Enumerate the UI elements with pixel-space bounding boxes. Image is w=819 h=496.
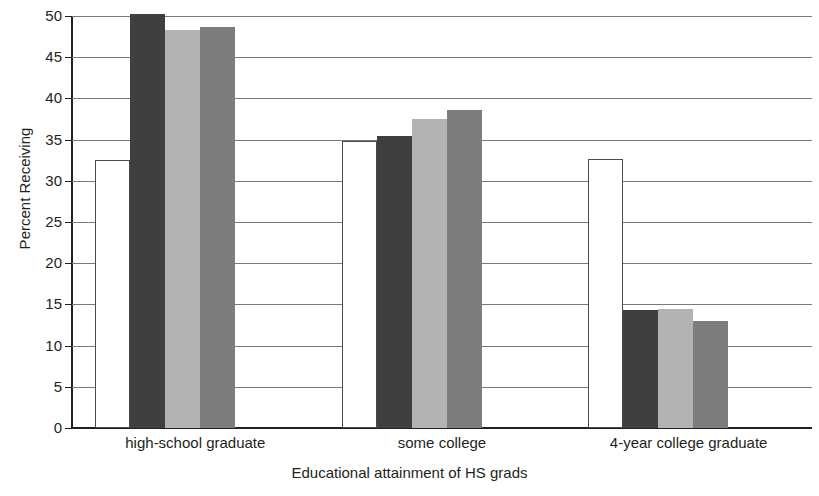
- bar: [658, 309, 693, 428]
- y-tick-50: [65, 16, 72, 17]
- bar: [588, 159, 623, 428]
- y-tick-10: [65, 346, 72, 347]
- y-tick-label: 40: [22, 90, 62, 105]
- x-axis-title: Educational attainment of HS grads: [0, 464, 819, 481]
- y-tick-label: 10: [22, 338, 62, 353]
- bar: [623, 310, 658, 428]
- y-tick-label: 50: [22, 8, 62, 23]
- bar: [95, 160, 130, 428]
- y-tick-15: [65, 304, 72, 305]
- bar: [447, 110, 482, 428]
- y-tick-20: [65, 263, 72, 264]
- y-tick-label: 20: [22, 255, 62, 270]
- x-category-label: 4-year college graduate: [565, 434, 812, 451]
- bar: [377, 136, 412, 428]
- y-tick-30: [65, 181, 72, 182]
- y-tick-label: 25: [22, 214, 62, 229]
- y-tick-label: 30: [22, 173, 62, 188]
- x-category-label: high-school graduate: [72, 434, 319, 451]
- bar: [342, 141, 377, 428]
- bar: [200, 27, 235, 428]
- x-category-label: some college: [319, 434, 566, 451]
- y-tick-25: [65, 222, 72, 223]
- bar-chart: Percent Receiving 05101520253035404550 h…: [0, 0, 819, 496]
- y-tick-label: 5: [22, 379, 62, 394]
- bar: [412, 119, 447, 428]
- bar: [130, 14, 165, 428]
- gridline-50: [72, 16, 812, 17]
- y-tick-label: 0: [22, 420, 62, 435]
- y-tick-label: 45: [22, 49, 62, 64]
- bar: [693, 321, 728, 428]
- y-tick-35: [65, 140, 72, 141]
- y-tick-45: [65, 57, 72, 58]
- y-tick-label: 15: [22, 296, 62, 311]
- y-tick-40: [65, 98, 72, 99]
- y-tick-0: [65, 428, 72, 429]
- plot-area: 05101520253035404550: [72, 16, 812, 428]
- bar: [165, 30, 200, 428]
- chart-title: [0, 0, 819, 1]
- y-tick-5: [65, 387, 72, 388]
- y-tick-label: 35: [22, 132, 62, 147]
